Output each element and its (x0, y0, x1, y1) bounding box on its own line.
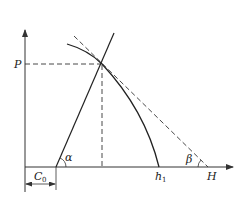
stiffness-line (56, 33, 114, 167)
tangent-line (74, 36, 208, 167)
diagram: P α β h 1 H C 0 (0, 0, 249, 204)
beta-label: β (185, 153, 192, 166)
h-label: H (206, 170, 217, 183)
c0-label: C 0 (34, 170, 46, 184)
h1-label: h 1 (155, 170, 166, 184)
beta-arc (198, 160, 201, 167)
h1-label-subscript: 1 (162, 176, 166, 184)
p-label: P (13, 58, 22, 71)
alpha-label: α (65, 151, 73, 164)
c0-label-subscript: 0 (42, 176, 46, 184)
